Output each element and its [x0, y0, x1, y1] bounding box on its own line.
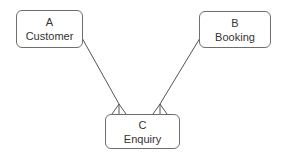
- entity-letter: C: [139, 118, 147, 132]
- entity-letter: B: [231, 16, 238, 30]
- crows-foot-icon-b-c: [153, 104, 167, 114]
- entity-booking[interactable]: B Booking: [199, 11, 271, 48]
- relationship-line-a-c: [82, 38, 119, 104]
- entity-name: Customer: [26, 29, 74, 43]
- entity-letter: A: [46, 15, 53, 29]
- entity-name: Enquiry: [124, 132, 161, 146]
- entity-customer[interactable]: A Customer: [16, 10, 83, 48]
- crows-foot-icon-a-c: [112, 104, 126, 114]
- relationship-line-b-c: [160, 38, 200, 104]
- entity-enquiry[interactable]: C Enquiry: [105, 114, 180, 149]
- entity-name: Booking: [215, 30, 255, 44]
